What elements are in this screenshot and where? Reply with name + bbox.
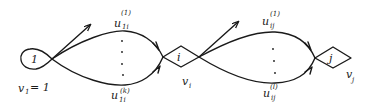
svg-text:u: u [114,17,121,30]
node-1: 1 [21,49,52,69]
svg-text:u: u [263,87,270,100]
edge-1i-bottom [52,57,163,85]
node-1-label: 1 [31,53,38,66]
node-j: j [315,47,351,68]
edge-1i-bottom-arrowhead [153,66,160,73]
edge-ij-top [199,32,315,58]
svg-text:v: v [18,82,25,95]
svg-text:ij: ij [271,94,276,102]
label-uij-bottom: (l) u ij [263,83,278,102]
svg-text:(k): (k) [120,87,130,95]
ellipsis-dot [274,72,276,74]
node-i: i [163,46,199,67]
svg-text:= 1: = 1 [30,81,50,94]
value-label-node-j: v j [346,68,355,84]
ellipsis-dot [121,63,123,65]
ellipsis-dot [122,74,124,76]
ellipsis-dot [272,48,274,50]
edge-ij-top-arrowhead [305,42,311,50]
svg-text:v: v [182,75,189,88]
svg-text:(l): (l) [270,83,278,91]
edge-1i-top-arrowhead [153,42,159,50]
flow-diagram: 1 i j (1) u 1i (k) u 1i [0,0,371,110]
svg-text:u: u [262,15,269,28]
svg-text:i: i [189,82,191,90]
outgoing-arrow-i [199,22,238,57]
node-i-label: i [177,51,181,64]
value-label-node-i: v i [182,75,191,90]
edge-group-i-j: (1) u ij (l) u ij [199,10,315,102]
svg-text:1i: 1i [119,96,126,104]
ellipsis-dot [121,51,123,53]
svg-text:1: 1 [25,88,29,96]
svg-text:1i: 1i [122,23,129,31]
node-j-label: j [326,52,333,65]
node-j-shape [315,47,351,68]
ellipsis-dot [273,60,275,62]
svg-text:ij: ij [270,22,275,30]
outgoing-arrow-1 [52,25,90,59]
value-label-node-1: v 1 = 1 [18,81,50,96]
node-i-shape [163,46,199,67]
label-uij-top: (1) u ij [262,10,280,30]
diagram-svg: 1 i j (1) u 1i (k) u 1i [0,0,371,110]
svg-text:(1): (1) [270,10,280,18]
ellipsis-dot [121,40,123,42]
edge-group-1-i: (1) u 1i (k) u 1i [52,9,163,104]
edge-ij-bottom [199,57,315,83]
label-u1i-top: (1) u 1i [114,9,131,31]
svg-text:(1): (1) [121,9,131,17]
svg-text:u: u [111,89,118,102]
label-u1i-bottom: (k) u 1i [111,87,130,104]
